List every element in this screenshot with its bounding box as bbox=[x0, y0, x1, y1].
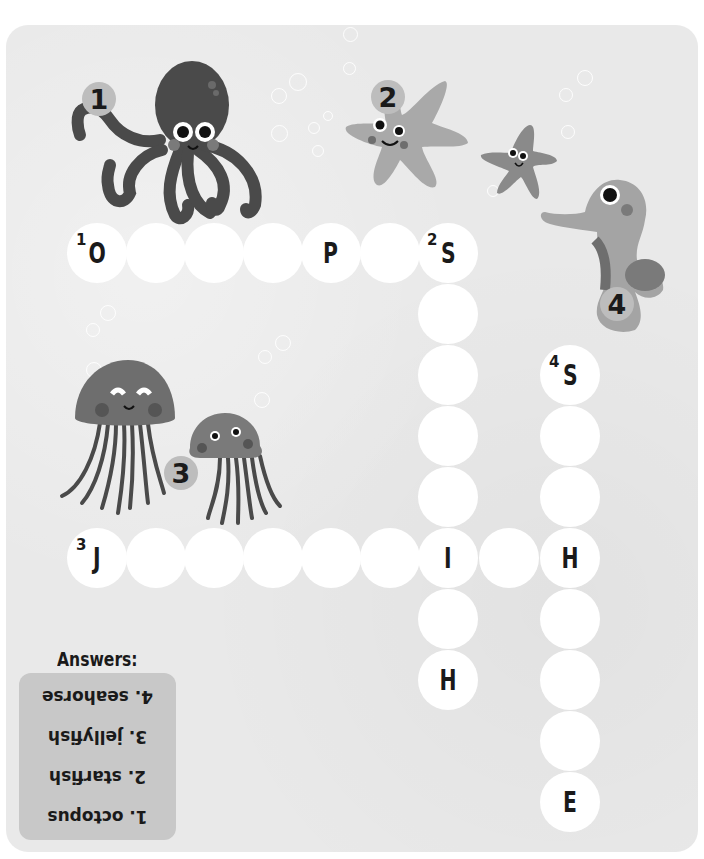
starfish-illustration bbox=[340, 75, 470, 195]
crossword-cell[interactable] bbox=[479, 528, 539, 588]
cell-letter: P bbox=[324, 239, 339, 268]
clue-number: 1 bbox=[76, 231, 86, 249]
crossword-cell[interactable] bbox=[184, 223, 244, 283]
clue-number: 3 bbox=[76, 536, 86, 554]
bubble-icon bbox=[275, 335, 291, 351]
bubble-icon bbox=[343, 27, 358, 42]
crossword-cell[interactable] bbox=[126, 528, 186, 588]
cell-letter: O bbox=[88, 239, 105, 268]
crossword-cell[interactable] bbox=[418, 467, 478, 527]
crossword-cell[interactable] bbox=[540, 589, 600, 649]
answer-item: 4. seahorse bbox=[19, 687, 176, 707]
bubble-icon bbox=[559, 88, 573, 102]
crossword-cell[interactable] bbox=[540, 406, 600, 466]
crossword-cell[interactable]: H bbox=[418, 650, 478, 710]
answer-item: 2. starfish bbox=[19, 767, 176, 787]
crossword-cell[interactable]: 4S bbox=[540, 345, 600, 405]
cell-letter: S bbox=[563, 361, 578, 390]
clue-number: 2 bbox=[427, 231, 437, 249]
answer-item: 3. jellyfish bbox=[19, 727, 176, 747]
bubble-icon bbox=[561, 125, 575, 139]
answers-box: 4. seahorse 3. jellyfish 2. starfish 1. … bbox=[19, 673, 176, 840]
crossword-cell[interactable] bbox=[243, 528, 303, 588]
crossword-cell[interactable] bbox=[301, 528, 361, 588]
crossword-cell[interactable] bbox=[540, 711, 600, 771]
cell-letter: S bbox=[441, 239, 456, 268]
crossword-cell[interactable] bbox=[540, 650, 600, 710]
bubble-icon bbox=[312, 145, 324, 157]
bubble-icon bbox=[271, 88, 287, 104]
cell-letter: H bbox=[561, 544, 578, 573]
bubble-icon bbox=[308, 122, 320, 134]
crossword-cell[interactable] bbox=[360, 223, 420, 283]
cell-letter: E bbox=[563, 788, 577, 817]
cell-letter: J bbox=[93, 544, 101, 573]
bubble-icon bbox=[343, 62, 356, 75]
bubble-icon bbox=[577, 70, 593, 86]
crossword-cell[interactable]: H bbox=[540, 528, 600, 588]
clue-number: 4 bbox=[549, 353, 559, 371]
crossword-cell[interactable]: I bbox=[418, 528, 478, 588]
cell-letter: I bbox=[444, 544, 452, 573]
clue-badge-3: 3 bbox=[164, 456, 198, 490]
crossword-cell[interactable] bbox=[540, 467, 600, 527]
answers-title: Answers: bbox=[57, 648, 138, 670]
cell-letter: H bbox=[439, 666, 456, 695]
bubble-icon bbox=[271, 125, 288, 142]
crossword-cell[interactable]: 2S bbox=[418, 223, 478, 283]
bubble-icon bbox=[86, 323, 100, 337]
crossword-cell[interactable] bbox=[418, 406, 478, 466]
bubble-icon bbox=[323, 111, 333, 121]
answer-item: 1. octopus bbox=[19, 807, 176, 827]
crossword-cell[interactable]: P bbox=[301, 223, 361, 283]
crossword-cell[interactable] bbox=[184, 528, 244, 588]
crossword-cell[interactable] bbox=[418, 284, 478, 344]
crossword-cell[interactable] bbox=[126, 223, 186, 283]
clue-badge-1: 1 bbox=[82, 82, 116, 116]
clue-badge-2: 2 bbox=[371, 80, 405, 114]
crossword-cell[interactable]: 3J bbox=[67, 528, 127, 588]
crossword-cell[interactable]: E bbox=[540, 772, 600, 832]
clue-badge-4: 4 bbox=[600, 287, 634, 321]
crossword-cell[interactable] bbox=[243, 223, 303, 283]
crossword-cell[interactable] bbox=[360, 528, 420, 588]
crossword-cell[interactable] bbox=[418, 589, 478, 649]
bubble-icon bbox=[289, 73, 307, 91]
octopus-illustration bbox=[70, 35, 270, 225]
jellyfish-illustration bbox=[60, 358, 290, 528]
bubble-icon bbox=[100, 305, 116, 321]
crossword-cell[interactable]: 1O bbox=[67, 223, 127, 283]
crossword-cell[interactable] bbox=[418, 345, 478, 405]
